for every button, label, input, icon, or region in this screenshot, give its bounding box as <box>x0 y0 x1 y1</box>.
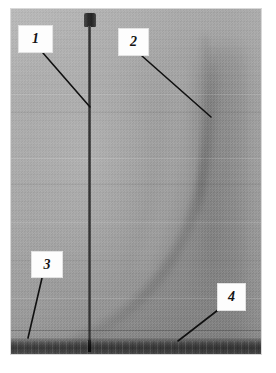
callout-label-3[interactable]: 3 <box>31 251 63 278</box>
nozzle-head <box>84 13 96 27</box>
callout-label-3-text: 3 <box>44 258 51 272</box>
substrate-texture <box>10 341 262 355</box>
scan-line <box>10 94 262 95</box>
callout-label-4[interactable]: 4 <box>217 283 246 311</box>
scan-line <box>10 184 262 185</box>
figure-root: 1 2 3 4 <box>0 0 276 373</box>
scan-line <box>10 222 262 223</box>
callout-label-1[interactable]: 1 <box>18 25 53 53</box>
substrate-seam <box>10 330 262 331</box>
callout-label-2-text: 2 <box>130 35 137 49</box>
probe-rod <box>88 26 91 350</box>
scan-line <box>10 158 262 159</box>
callout-label-4-text: 4 <box>228 290 235 304</box>
callout-label-2[interactable]: 2 <box>118 28 149 56</box>
scan-line <box>10 112 262 113</box>
callout-label-1-text: 1 <box>32 32 39 46</box>
